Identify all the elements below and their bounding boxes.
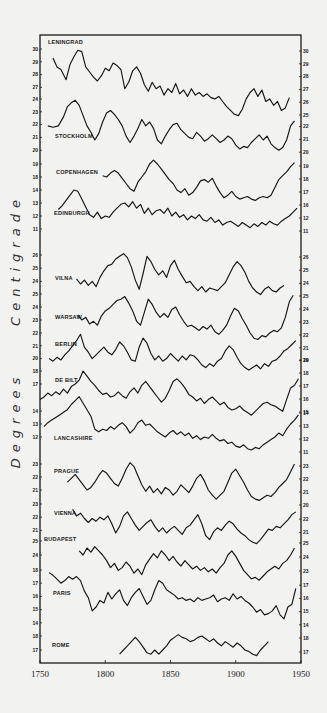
right-tick-label: 17	[303, 189, 309, 195]
right-tick-label: 24	[303, 280, 309, 286]
left-tick-label: 25	[32, 291, 38, 297]
left-tick-label: 14	[32, 620, 38, 626]
right-tick-label: 19	[303, 357, 309, 363]
right-tick-label: 29	[303, 61, 309, 67]
left-tick-label: 22	[32, 330, 38, 336]
right-tick-label: 11	[303, 228, 309, 234]
left-tick-label: 27	[32, 84, 38, 90]
left-tick-label: 22	[32, 121, 38, 127]
right-tick-label: 22	[303, 476, 309, 482]
x-tick-label: 1950	[292, 669, 311, 679]
left-tick-label: 18	[32, 174, 38, 180]
page-background	[0, 0, 327, 713]
right-tick-label: 22	[303, 332, 309, 338]
left-tick-label: 26	[32, 252, 38, 258]
right-tick-label: 27	[303, 86, 309, 92]
right-tick-label: 16	[303, 396, 309, 402]
x-tick-label: 1800	[96, 669, 115, 679]
right-tick-label: 11	[303, 449, 309, 455]
left-tick-label: 22	[32, 474, 38, 480]
city-label: PRAGUE	[54, 468, 79, 474]
left-tick-label: 25	[32, 265, 38, 271]
left-tick-label: 17	[32, 580, 38, 586]
city-label: VILNA	[55, 275, 73, 281]
left-tick-label: 18	[32, 633, 38, 639]
right-tick-label: 26	[303, 99, 309, 105]
left-tick-label: 23	[32, 317, 38, 323]
left-tick-label: 15	[32, 606, 38, 612]
city-label: EDINBURGH	[54, 210, 90, 216]
right-tick-label: 18	[303, 635, 309, 641]
right-tick-label: 13	[303, 423, 309, 429]
city-label: DE BILT	[55, 377, 78, 383]
right-tick-label: 15	[303, 608, 309, 614]
city-label: STOCKHOLM	[55, 133, 93, 139]
right-tick-label: 20	[303, 149, 309, 155]
right-tick-label: 21	[303, 489, 309, 495]
left-tick-label: 30	[32, 46, 38, 52]
left-tick-label: 14	[32, 408, 38, 414]
left-tick-label: 20	[32, 147, 38, 153]
right-tick-label: 17	[303, 649, 309, 655]
left-tick-label: 24	[32, 96, 38, 102]
left-tick-label: 12	[32, 213, 38, 219]
city-label: BERLIN	[55, 341, 77, 347]
left-tick-label: 17	[32, 647, 38, 653]
left-tick-label: 25	[32, 538, 38, 544]
city-label: BUDAPEST	[44, 536, 77, 542]
left-tick-label: 24	[32, 304, 38, 310]
right-tick-label: 23	[303, 319, 309, 325]
city-label: ROME	[52, 642, 70, 648]
city-label: LANCASHIRE	[54, 435, 93, 441]
left-tick-label: 18	[32, 368, 38, 374]
right-tick-label: 21	[303, 345, 309, 351]
x-tick-label: 1900	[227, 669, 246, 679]
city-label: COPENHAGEN	[56, 169, 98, 175]
left-tick-label: 23	[32, 501, 38, 507]
right-tick-label: 21	[303, 136, 309, 142]
right-tick-label: 14	[303, 622, 309, 628]
left-tick-label: 21	[32, 343, 38, 349]
left-tick-label: 11	[33, 226, 39, 232]
left-tick-label: 23	[32, 109, 38, 115]
right-tick-label: 12	[303, 215, 309, 221]
left-tick-label: 20	[32, 355, 38, 361]
city-label: PARIS	[53, 590, 71, 596]
x-tick-label: 1750	[31, 669, 50, 679]
left-tick-label: 19	[32, 161, 38, 167]
left-tick-label: 16	[32, 593, 38, 599]
right-tick-label: 14	[303, 410, 309, 416]
left-tick-label: 17	[32, 381, 38, 387]
right-tick-label: 12	[303, 436, 309, 442]
right-tick-label: 22	[303, 123, 309, 129]
right-tick-label: 22	[303, 516, 309, 522]
left-tick-label: 18	[32, 567, 38, 573]
right-tick-label: 26	[303, 254, 309, 260]
city-label: WARSAW	[55, 314, 83, 320]
right-tick-label: 23	[303, 463, 309, 469]
left-tick-label: 22	[32, 514, 38, 520]
left-tick-label: 29	[32, 59, 38, 65]
right-tick-label: 16	[303, 595, 309, 601]
right-tick-label: 24	[303, 306, 309, 312]
left-tick-label: 24	[32, 552, 38, 558]
x-tick-label: 1850	[162, 669, 181, 679]
right-tick-label: 18	[303, 370, 309, 376]
left-tick-label: 12	[32, 434, 38, 440]
right-tick-label: 17	[303, 383, 309, 389]
left-tick-label: 28	[32, 71, 38, 77]
left-tick-label: 13	[32, 200, 38, 206]
right-tick-label: 25	[303, 293, 309, 299]
city-label: VIENNA	[54, 510, 76, 516]
stacked-temperature-chart: DegreesCentigrade 17501800185019001950 L…	[0, 0, 327, 713]
left-tick-label: 23	[32, 461, 38, 467]
right-tick-label: 25	[303, 267, 309, 273]
right-tick-label: 21	[303, 529, 309, 535]
left-tick-label: 24	[32, 278, 38, 284]
left-tick-label: 21	[32, 134, 38, 140]
left-tick-label: 21	[32, 487, 38, 493]
y-axis-label-word: Degrees	[8, 372, 23, 468]
right-tick-label: 16	[303, 202, 309, 208]
right-tick-label: 24	[303, 554, 309, 560]
y-axis-label-word: Centigrade	[8, 194, 23, 326]
